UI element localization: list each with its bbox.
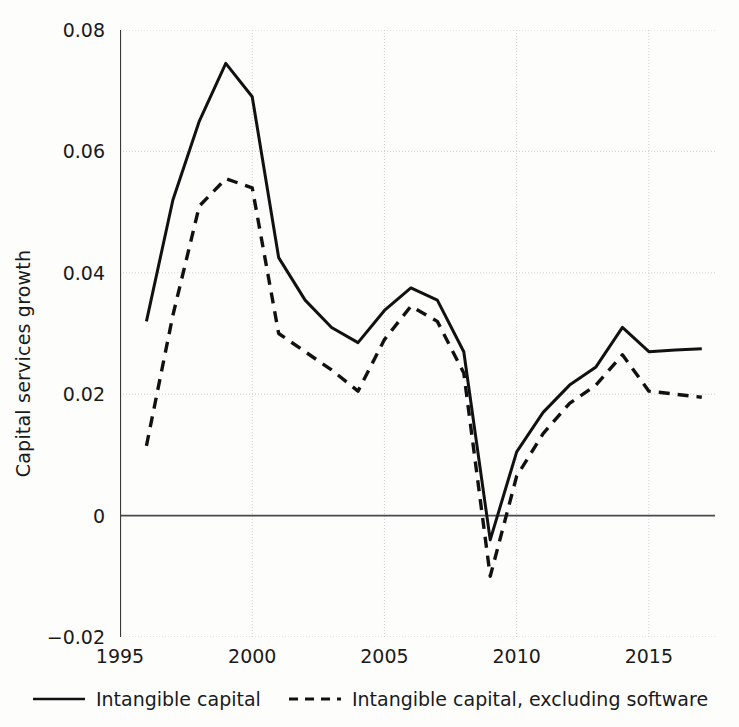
legend-label: Intangible capital	[96, 690, 261, 709]
x-axis-tick-label: 2005	[360, 647, 408, 666]
x-axis-tick-label: 2015	[625, 647, 673, 666]
legend-item-1[interactable]: Intangible capital	[31, 690, 261, 709]
series-line-2	[146, 179, 701, 577]
x-axis-tick-label: 1995	[96, 647, 144, 666]
legend-label: Intangible capital, excluding software	[352, 690, 708, 709]
x-axis-tick-label: 2000	[228, 647, 276, 666]
legend-dashed-line-icon	[287, 693, 343, 705]
chart-plot-svg	[120, 30, 715, 637]
plot-area	[120, 30, 715, 637]
series-line-1	[146, 63, 701, 540]
chart-legend: Intangible capitalIntangible capital, ex…	[0, 682, 739, 716]
legend-solid-line-icon	[31, 693, 87, 705]
legend-item-2[interactable]: Intangible capital, excluding software	[287, 690, 708, 709]
x-axis-tick-label: 2010	[492, 647, 540, 666]
chart-figure: Capital services growth −0.0200.020.040.…	[0, 0, 739, 727]
